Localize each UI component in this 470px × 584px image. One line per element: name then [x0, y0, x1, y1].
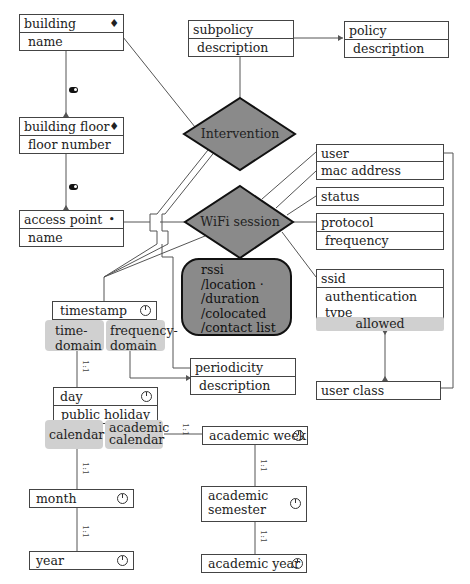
- entity-title: building: [24, 16, 76, 31]
- weak-entity-marker-icon: [69, 87, 78, 93]
- clock-icon: [117, 493, 128, 504]
- entity-title: mac address: [321, 163, 401, 178]
- cardinality-label: 1:1: [259, 530, 268, 543]
- group-allowed[interactable]: allowed: [316, 317, 444, 331]
- entity-title: academic semester: [208, 488, 268, 517]
- entity-academic-semester[interactable]: academic semester: [201, 486, 307, 522]
- group-frequency-domain[interactable]: frequency-domain: [106, 320, 165, 351]
- cardinality-label: 1:1: [181, 423, 190, 436]
- cardinality-label: 1:1: [81, 360, 90, 373]
- entity-title: status: [321, 189, 359, 204]
- weak-entity-marker-icon: [69, 184, 78, 190]
- location-pin-icon: ♦: [109, 118, 119, 135]
- entity-title: timestamp: [60, 303, 127, 318]
- cardinality-label: 1:1: [81, 462, 90, 475]
- entity-ssid[interactable]: ssid authentication type: [316, 269, 444, 323]
- entity-title: protocol: [321, 215, 374, 230]
- group-academic-calendar[interactable]: academic calendar: [105, 420, 163, 449]
- entity-day[interactable]: day public holiday: [53, 387, 158, 424]
- entity-access-point[interactable]: access point• name: [19, 210, 124, 247]
- dot-icon: •: [109, 211, 116, 228]
- clock-icon: [140, 305, 151, 316]
- entity-academic-year[interactable]: academic year: [201, 554, 307, 573]
- entity-status[interactable]: status: [316, 187, 444, 206]
- entity-title: year: [36, 553, 64, 568]
- entity-title: ssid: [321, 271, 346, 286]
- entity-title: academic year: [208, 556, 300, 571]
- entity-title: academic week: [209, 428, 306, 443]
- entity-title: periodicity: [195, 360, 263, 375]
- entity-periodicity[interactable]: periodicity description: [190, 358, 296, 395]
- entity-title: access point: [24, 212, 102, 227]
- entity-attribute: name: [20, 228, 123, 246]
- entity-building-floor[interactable]: building floor♦ floor number: [19, 117, 124, 154]
- entity-attribute: description: [189, 38, 293, 56]
- entity-title: policy: [349, 23, 387, 38]
- derived-attributes-box[interactable]: rssi /location · /duration /colocated /c…: [181, 258, 292, 336]
- clock-icon: [141, 391, 152, 402]
- entity-academic-week[interactable]: academic week: [202, 426, 308, 445]
- relationship-intervention[interactable]: Intervention: [195, 126, 285, 141]
- entity-attribute: name: [20, 32, 123, 50]
- entity-subpolicy[interactable]: subpolicy description: [188, 20, 294, 57]
- attr-colocated: /colocated: [201, 307, 290, 322]
- entity-title: subpolicy: [193, 22, 253, 37]
- entity-attribute: frequency: [317, 231, 443, 249]
- group-time-domain[interactable]: time-domain: [45, 320, 104, 351]
- entity-attribute: floor number: [20, 135, 123, 153]
- cardinality-label: 1:1: [259, 459, 268, 472]
- cardinality-label: 1:1: [81, 525, 90, 538]
- entity-title: month: [36, 491, 77, 506]
- entity-building[interactable]: building♦ name: [19, 14, 124, 51]
- clock-icon: [292, 558, 303, 569]
- entity-timestamp[interactable]: timestamp: [52, 301, 157, 320]
- entity-protocol[interactable]: protocol frequency: [316, 213, 444, 250]
- attr-contact-list: /contact list: [201, 321, 290, 336]
- clock-icon: [290, 498, 301, 509]
- location-pin-icon: ♦: [109, 15, 119, 32]
- clock-icon: [117, 555, 128, 566]
- entity-title: building floor: [24, 119, 109, 134]
- attr-rssi: rssi: [201, 263, 290, 278]
- attr-location: /location ·: [201, 278, 290, 293]
- entity-attribute: description: [191, 376, 295, 394]
- entity-title: user: [321, 146, 349, 161]
- entity-year[interactable]: year: [29, 551, 134, 570]
- entity-title: day: [60, 389, 83, 404]
- entity-title: user class: [321, 383, 384, 398]
- entity-month[interactable]: month: [29, 489, 134, 508]
- attr-duration: /duration: [201, 292, 290, 307]
- entity-user-class[interactable]: user class: [316, 381, 441, 400]
- entity-attribute: description: [345, 39, 448, 57]
- clock-icon: [293, 430, 304, 441]
- entity-policy[interactable]: policy description: [344, 21, 449, 58]
- relationship-wifi-session[interactable]: WiFi session: [195, 214, 285, 229]
- entity-mac-address[interactable]: mac address: [316, 161, 444, 180]
- group-calendar[interactable]: calendar: [45, 420, 103, 449]
